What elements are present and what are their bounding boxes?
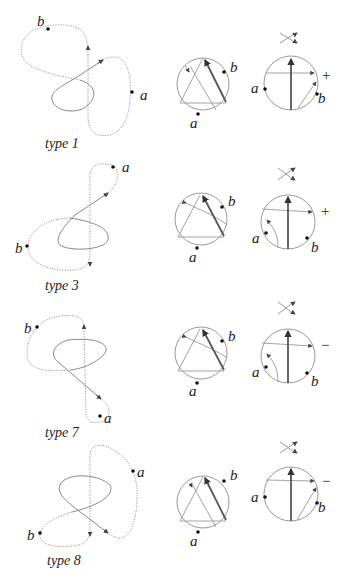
label-b: b <box>228 328 236 344</box>
label-b: b <box>311 239 319 255</box>
gauss-diagram: b a <box>177 467 238 549</box>
label-a: a <box>189 383 197 399</box>
crossing-chord-diagram: a b + <box>252 168 329 255</box>
label-a: a <box>140 87 148 103</box>
knot-diagram: a b <box>15 159 130 270</box>
row-type-3: a b type 3 b a <box>15 159 329 293</box>
knot-diagram: a b <box>27 445 145 546</box>
label-b: b <box>318 499 326 515</box>
crossing-chord-diagram: a b − <box>251 442 330 521</box>
gauss-diagram: b a <box>177 58 238 131</box>
gauss-diagram: b a <box>175 327 236 399</box>
crossing-sign: + <box>322 67 330 83</box>
crossing-icon <box>280 33 297 43</box>
crossing-chord-diagram: a b − <box>252 302 329 389</box>
knot-diagram: b a <box>21 13 147 136</box>
label-a: a <box>251 80 259 96</box>
label-b: b <box>318 90 326 106</box>
label-b: b <box>311 373 319 389</box>
crossing-sign: − <box>321 337 329 353</box>
label-b: b <box>37 13 45 29</box>
label-b: b <box>230 467 238 483</box>
label-a: a <box>252 230 260 246</box>
label-a: a <box>251 489 259 505</box>
caption: type 3 <box>45 278 79 293</box>
point-a <box>130 90 134 94</box>
crossing-sign: + <box>321 203 329 219</box>
knot-figure: b a type 1 b a <box>0 0 344 583</box>
label-a: a <box>189 249 197 265</box>
label-a: a <box>122 159 130 175</box>
crossing-icon <box>278 168 295 180</box>
row-type-8: a b type 8 b a <box>27 442 330 568</box>
label-b: b <box>228 193 236 209</box>
gauss-diagram: b a <box>175 193 236 265</box>
label-a: a <box>190 533 198 549</box>
label-a: a <box>252 364 260 380</box>
crossing-icon <box>280 442 297 453</box>
label-a: a <box>104 410 112 426</box>
label-b: b <box>15 240 23 256</box>
crossing-sign: − <box>322 473 330 489</box>
caption: type 8 <box>47 553 81 568</box>
crossing-icon <box>278 302 295 314</box>
label-b: b <box>27 527 35 543</box>
point-b <box>46 27 50 31</box>
row-type-7: b a type 7 b a <box>24 302 329 440</box>
label-b: b <box>24 320 32 336</box>
label-a: a <box>137 464 145 480</box>
row-type-1: b a type 1 b a <box>21 13 330 151</box>
label-b: b <box>230 59 238 75</box>
label-a: a <box>190 115 198 131</box>
caption: type 7 <box>45 425 80 440</box>
knot-diagram: b a <box>24 316 112 427</box>
caption: type 1 <box>45 136 79 151</box>
crossing-chord-diagram: a b + <box>251 33 330 110</box>
